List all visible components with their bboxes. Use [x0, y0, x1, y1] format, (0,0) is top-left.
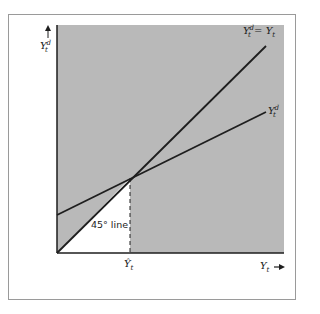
x-axis-label: Yt	[260, 261, 269, 274]
y-axis-label: Ydt	[40, 40, 48, 54]
aggregate-demand-label: Ydt	[268, 105, 276, 119]
forty-five-annotation: 45° line	[91, 220, 128, 230]
x-axis-arrow-icon	[279, 264, 285, 270]
equilibrium-output-label: Ŷt	[124, 259, 133, 272]
forty-five-line-label: Ydt = Yt	[243, 25, 275, 39]
y-axis-arrow-icon	[45, 25, 51, 31]
